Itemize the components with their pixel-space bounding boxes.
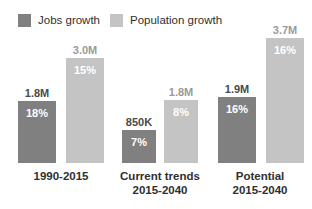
bar-percent-label: 16% [274,44,296,56]
plot-area: 1.8M 18% 3.0M 15% 850K 7% 1.8M 8% [0,0,312,209]
bar-jobs-growth-potential[interactable]: 1.9M 16% [218,97,256,163]
category-label-1990-2015: 1990-2015 [10,169,112,183]
bar-population-growth-potential[interactable]: 3.7M 16% [266,38,304,163]
bar-group-columns: 1.9M 16% 3.7M 16% [218,38,304,163]
bar-percent-label: 18% [26,107,48,119]
bar-value-label: 3.7M [273,24,297,36]
bar-jobs-growth-1990-2015[interactable]: 1.8M 18% [18,101,56,163]
category-label-line-1: 1990-2015 [10,169,112,183]
bar-group-current-trends-2015-2040: 850K 7% 1.8M 8% [122,38,198,163]
category-label-line-1: Potential [212,169,308,183]
bar-population-growth-current-trends[interactable]: 1.8M 8% [164,100,198,163]
bar-value-label: 3.0M [73,44,97,56]
bar-value-label: 850K [126,116,152,128]
bar-group-1990-2015: 1.8M 18% 3.0M 15% [18,38,104,163]
bar-population-growth-1990-2015[interactable]: 3.0M 15% [66,58,104,163]
bar-percent-label: 16% [226,103,248,115]
bar-group-columns: 850K 7% 1.8M 8% [122,38,198,163]
category-label-line-2: 2015-2040 [212,183,308,197]
bar-value-label: 1.9M [225,83,249,95]
category-label-potential: Potential 2015-2040 [212,169,308,197]
category-label-line-2: 2015-2040 [112,183,208,197]
category-label-current-trends: Current trends 2015-2040 [112,169,208,197]
category-label-line-1: Current trends [112,169,208,183]
bar-group-columns: 1.8M 18% 3.0M 15% [18,38,104,163]
bar-chart: Jobs growth Population growth 1.8M 18% 3… [0,0,312,209]
bar-jobs-growth-current-trends[interactable]: 850K 7% [122,130,156,163]
bar-percent-label: 15% [74,64,96,76]
bar-group-potential-2015-2040: 1.9M 16% 3.7M 16% [218,38,304,163]
bar-value-label: 1.8M [25,87,49,99]
bar-percent-label: 8% [173,106,189,118]
bar-percent-label: 7% [131,136,147,148]
bar-value-label: 1.8M [169,86,193,98]
